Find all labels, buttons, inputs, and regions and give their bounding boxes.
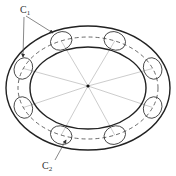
radial-line bbox=[23, 68, 88, 86]
radial-lines bbox=[23, 41, 152, 135]
dashed-centerline bbox=[18, 37, 158, 139]
c1-arrow-1 bbox=[26, 16, 53, 33]
cross-sections bbox=[11, 28, 165, 147]
label-c2: C2 bbox=[42, 160, 53, 173]
inner-boundary bbox=[30, 47, 146, 129]
label-c1: C1 bbox=[20, 4, 31, 17]
center-point bbox=[86, 84, 89, 87]
torus-diagram: C1 C2 bbox=[0, 0, 176, 176]
c1-arrow-2 bbox=[23, 17, 24, 57]
radial-line bbox=[88, 68, 153, 86]
